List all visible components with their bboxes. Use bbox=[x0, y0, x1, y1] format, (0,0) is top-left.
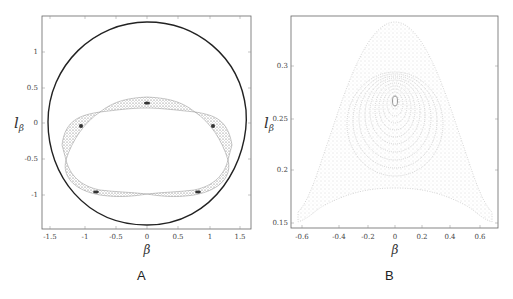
chaotic-arch bbox=[298, 22, 492, 222]
y-tick: -1 bbox=[31, 191, 38, 199]
x-tick: 1.5 bbox=[234, 233, 245, 241]
y-tick-labels: 1 0.5 0 -0.5 -1 bbox=[25, 48, 39, 199]
band-upper-right-lobe bbox=[195, 112, 232, 160]
y-tick: 0.15 bbox=[272, 219, 288, 227]
x-tick: -0.4 bbox=[332, 233, 346, 241]
x-tick: -0.2 bbox=[361, 233, 375, 241]
y-tick: 0.2 bbox=[277, 166, 288, 174]
x-axis-label: β bbox=[143, 243, 151, 257]
band-upper-left-lobe bbox=[62, 112, 100, 160]
y-tick: 0.25 bbox=[272, 115, 288, 123]
y-tick-labels: 0.3 0.25 0.2 0.15 bbox=[272, 62, 288, 227]
x-tick: 0.2 bbox=[416, 233, 427, 241]
y-tick: 1 bbox=[34, 48, 38, 56]
x-tick: 0 bbox=[393, 233, 397, 241]
x-tick: 0.5 bbox=[172, 233, 183, 241]
x-tick-labels: -0.6 -0.4 -0.2 0 0.2 0.4 0.6 bbox=[295, 233, 486, 241]
panel-a: -1.5 -1 -0.5 0 0.5 1 1.5 1 0.5 0 -0.5 -1… bbox=[0, 0, 260, 260]
x-tick: 0.4 bbox=[444, 233, 456, 241]
panel-a-plot: -1.5 -1 -0.5 0 0.5 1 1.5 1 0.5 0 -0.5 -1… bbox=[0, 0, 260, 260]
x-tick: -1 bbox=[82, 233, 89, 241]
caption-b: B bbox=[385, 268, 394, 283]
caption-a: A bbox=[137, 268, 146, 283]
x-tick: 1 bbox=[208, 233, 212, 241]
x-tick: -0.5 bbox=[109, 233, 123, 241]
y-tick: -0.5 bbox=[25, 155, 39, 163]
panel-b-plot: -0.6 -0.4 -0.2 0 0.2 0.4 0.6 0.3 0.25 0.… bbox=[260, 0, 513, 260]
y-tick: 0.3 bbox=[277, 62, 288, 70]
island-centers bbox=[79, 101, 215, 193]
y-tick: 0.5 bbox=[27, 84, 38, 92]
y-axis-label: lβ bbox=[14, 114, 24, 133]
x-axis-label: β bbox=[391, 243, 399, 257]
x-tick-labels: -1.5 -1 -0.5 0 0.5 1 1.5 bbox=[43, 233, 245, 241]
x-tick: -0.6 bbox=[295, 233, 309, 241]
panel-b: -0.6 -0.4 -0.2 0 0.2 0.4 0.6 0.3 0.25 0.… bbox=[260, 0, 513, 260]
x-tick: 0 bbox=[145, 233, 149, 241]
y-tick: 0 bbox=[34, 119, 38, 127]
x-tick: -1.5 bbox=[43, 233, 57, 241]
band-lower-left-lobe bbox=[65, 160, 147, 197]
band-lower-right-lobe bbox=[147, 160, 229, 197]
x-tick: 0.6 bbox=[474, 233, 486, 241]
